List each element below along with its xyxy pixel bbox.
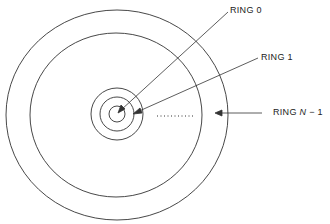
- ring-outer: [6, 10, 228, 220]
- ring-second-outer: [30, 33, 202, 197]
- ring-1-arrowhead: [133, 108, 142, 114]
- ring-1-circle: [100, 97, 134, 131]
- ring-1-leader: [137, 58, 258, 112]
- ring-0-label: RING 0: [230, 5, 262, 15]
- ring-n-suffix: − 1: [306, 107, 322, 117]
- ring-n-arrowhead: [215, 110, 222, 116]
- ring-1-label: RING 1: [261, 52, 293, 62]
- ring-n-minus-1-label: RING N − 1: [273, 107, 323, 117]
- ring-n-prefix: RING: [273, 107, 300, 117]
